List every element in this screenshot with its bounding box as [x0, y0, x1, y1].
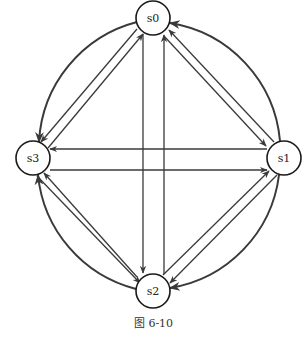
edge-s2-to-s3	[44, 173, 137, 277]
arc-edge-s1-to-s2	[170, 175, 279, 288]
node-s3-label: s3	[27, 152, 40, 165]
node-s0-label: s0	[147, 12, 160, 25]
node-s2-label: s2	[147, 285, 160, 298]
edge-s2-to-s1	[163, 171, 269, 275]
edge-s3-to-s0	[48, 34, 143, 148]
arc-edge-s0-to-s3	[39, 22, 137, 142]
state-diagram: s0 s1 s2 s3	[0, 0, 307, 338]
edge-s1-to-s0	[169, 30, 274, 142]
node-s1-label: s1	[278, 152, 291, 165]
figure-caption: 图 6-10	[0, 314, 307, 330]
node-s2: s2	[136, 274, 170, 308]
arc-edge-s1-to-s0	[170, 23, 280, 141]
edge-s0-to-s1	[164, 36, 266, 146]
node-s0: s0	[136, 1, 170, 35]
node-s1: s1	[267, 141, 301, 175]
node-s3: s3	[16, 141, 50, 175]
